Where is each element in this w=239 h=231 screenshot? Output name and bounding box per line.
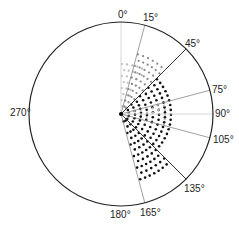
angle-label-0: 0°	[118, 10, 128, 20]
angle-label-90: 90°	[215, 109, 230, 119]
angle-label-15: 15°	[143, 13, 158, 23]
angle-label-75: 75°	[212, 85, 227, 95]
angle-label-165: 165°	[140, 208, 161, 218]
polar-diagram: 0°15°45°75°90°105°135°165°180°270°	[0, 0, 239, 231]
dot-sector-0-30	[121, 63, 144, 108]
polar-diagram-svg	[0, 0, 239, 231]
angle-label-45: 45°	[185, 39, 200, 49]
radial-line-45	[121, 49, 186, 114]
radial-line-165	[121, 114, 145, 203]
angle-label-270: 270°	[10, 108, 31, 118]
radial-line-135	[121, 114, 186, 179]
dot-sector-135-165	[122, 119, 168, 180]
angle-label-105: 105°	[213, 135, 234, 145]
angle-label-180: 180°	[110, 210, 131, 220]
dot-sector-45-90	[127, 78, 173, 114]
angle-label-135: 135°	[184, 184, 205, 194]
center-point	[119, 112, 123, 116]
